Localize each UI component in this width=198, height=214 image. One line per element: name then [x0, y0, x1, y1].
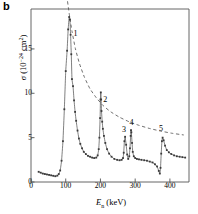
reference-dashed-curve	[67, 0, 184, 135]
axes-frame	[31, 9, 189, 182]
measured-data-curve	[39, 17, 186, 176]
peak-label-1: 1	[73, 29, 77, 38]
peak-label-5: 5	[159, 124, 163, 133]
peak-label-2: 2	[103, 95, 107, 104]
figure-panel-b: b σ (10−24 cm2) En (keV) 051015 01002003…	[0, 0, 198, 214]
peak-label-3: 3	[122, 125, 126, 134]
plot-canvas: 12345	[0, 0, 198, 214]
peak-label-4: 4	[129, 118, 133, 127]
data-point-markers	[38, 16, 186, 177]
